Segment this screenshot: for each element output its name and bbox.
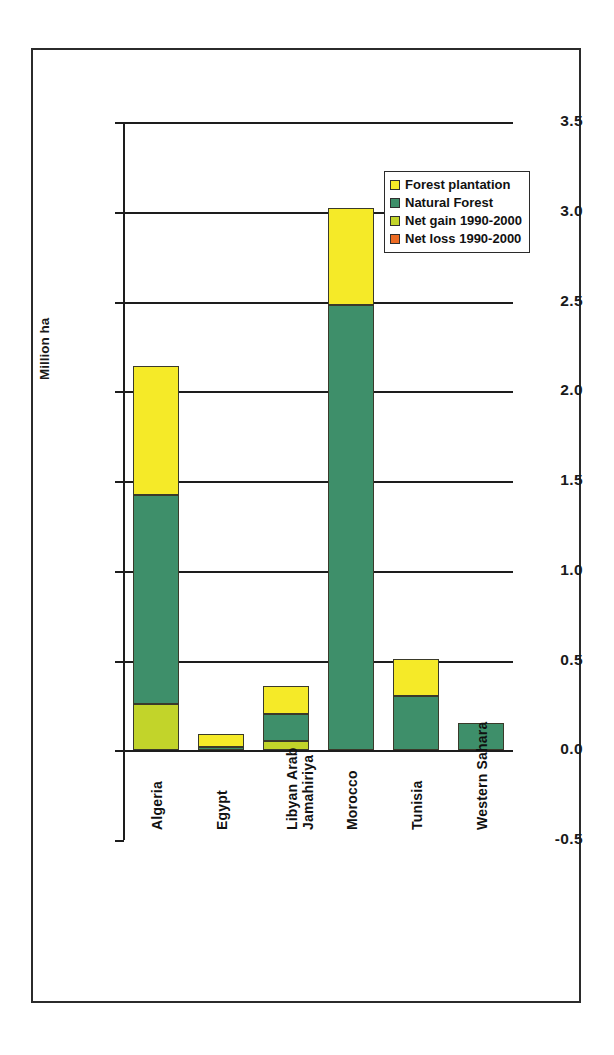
bar-segment[interactable] <box>133 704 179 751</box>
x-axis-label-line: Morocco <box>344 771 360 831</box>
bar-group[interactable] <box>263 122 309 840</box>
x-axis-label-line: Tunisia <box>409 781 425 830</box>
x-axis-label-line: Algeria <box>149 781 165 830</box>
chart-legend: Forest plantationNatural ForestNet gain … <box>384 171 530 253</box>
x-axis-label-line: Jamahiriya <box>300 748 316 831</box>
bar-segment[interactable] <box>263 686 309 715</box>
bar-segment[interactable] <box>328 208 374 305</box>
y-axis-tick-label: 2.5 <box>537 292 583 310</box>
y-axis-tick-label: 0.0 <box>537 740 583 758</box>
y-axis-tick-label: 3.5 <box>537 112 583 130</box>
bar-segment[interactable] <box>263 714 309 741</box>
bar-group[interactable] <box>328 122 374 840</box>
x-axis-label-line: Western Sahara <box>474 722 490 830</box>
legend-label: Forest plantation <box>405 178 510 191</box>
gridline <box>123 481 513 483</box>
legend-label: Net gain 1990-2000 <box>405 214 522 227</box>
legend-item[interactable]: Net loss 1990-2000 <box>390 230 522 247</box>
legend-label: Natural Forest <box>405 196 493 209</box>
bar-group[interactable] <box>198 122 244 840</box>
x-axis-label-line: Egypt <box>214 790 230 830</box>
legend-item[interactable]: Net gain 1990-2000 <box>390 212 522 229</box>
bar-segment[interactable] <box>133 366 179 495</box>
y-axis-tick <box>115 840 124 842</box>
bar-segment[interactable] <box>198 734 244 747</box>
gridline <box>123 391 513 393</box>
x-axis-label: Libyan ArabJamahiriya <box>284 748 316 831</box>
legend-item[interactable]: Natural Forest <box>390 194 522 211</box>
legend-label: Net loss 1990-2000 <box>405 232 521 245</box>
legend-item[interactable]: Forest plantation <box>390 176 522 193</box>
legend-swatch-icon <box>390 234 400 244</box>
bar-group[interactable] <box>133 122 179 840</box>
gridline <box>123 661 513 663</box>
chart-page-frame: Million ha 3.53.02.52.01.51.00.50.0-0.5 … <box>31 48 581 1003</box>
y-axis-tick-label: 1.0 <box>537 561 583 579</box>
x-axis-label: Western Sahara <box>474 722 490 830</box>
bar-segment[interactable] <box>133 495 179 703</box>
x-axis-label: Egypt <box>214 790 230 830</box>
bar-segment[interactable] <box>393 659 439 697</box>
bar-segment[interactable] <box>393 696 439 750</box>
stacked-bar-chart: Million ha 3.53.02.52.01.51.00.50.0-0.5 … <box>33 50 583 1005</box>
x-axis-label: Morocco <box>344 771 360 831</box>
y-axis-tick-label: 0.5 <box>537 651 583 669</box>
legend-swatch-icon <box>390 216 400 226</box>
y-axis-tick-label: 1.5 <box>537 471 583 489</box>
bar-segment[interactable] <box>328 305 374 750</box>
y-axis-tick-label: -0.5 <box>537 830 583 848</box>
gridline <box>123 122 513 124</box>
bar-segment[interactable] <box>198 747 244 751</box>
gridline <box>123 302 513 304</box>
x-axis-label: Tunisia <box>409 781 425 830</box>
y-axis-tick-label: 2.0 <box>537 381 583 399</box>
x-axis-label-line: Libyan Arab <box>284 748 300 831</box>
gridline <box>123 571 513 573</box>
y-axis-title: Million ha <box>37 318 52 380</box>
legend-swatch-icon <box>390 180 400 190</box>
legend-swatch-icon <box>390 198 400 208</box>
y-axis-tick-label: 3.0 <box>537 202 583 220</box>
x-axis-label: Algeria <box>149 781 165 830</box>
gridline <box>123 750 513 752</box>
